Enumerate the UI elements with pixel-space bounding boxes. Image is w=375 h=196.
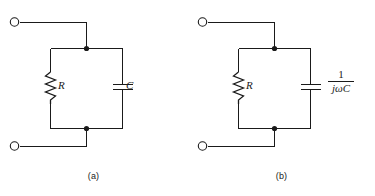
capacitor-label-a: C [126,80,133,91]
top-terminal-a [10,18,18,26]
panel-caption-a: (a) [0,170,187,182]
impedance-numerator: 1 [328,69,354,81]
circuit-figure: R C (a) R 1 jωC [0,0,375,196]
top-lead-wire-a [20,22,87,49]
bottom-node-dot-b [272,126,277,131]
panel-caption-b: (b) [188,170,375,182]
top-terminal-b [198,18,206,26]
resistor-symbol-a [46,72,56,104]
resistor-label-b: R [246,80,253,91]
capacitor-impedance-label-b: 1 jωC [318,69,364,96]
bottom-node-dot-a [84,126,89,131]
resistor-symbol-b [234,72,244,104]
bottom-terminal-a [10,142,18,150]
circuit-panel-b: R 1 jωC (b) [188,0,375,196]
top-lead-wire-b [208,22,275,49]
circuit-panel-a: R C (a) [0,0,187,196]
impedance-fraction: 1 jωC [328,69,354,94]
resistor-label-a: R [58,80,65,91]
top-node-dot-a [84,46,89,51]
impedance-denominator: jωC [328,82,354,94]
bottom-lead-wire-a [20,129,87,147]
bottom-terminal-b [198,142,206,150]
top-node-dot-b [272,46,277,51]
circuit-schematic-a [0,0,187,170]
bottom-lead-wire-b [208,129,275,147]
